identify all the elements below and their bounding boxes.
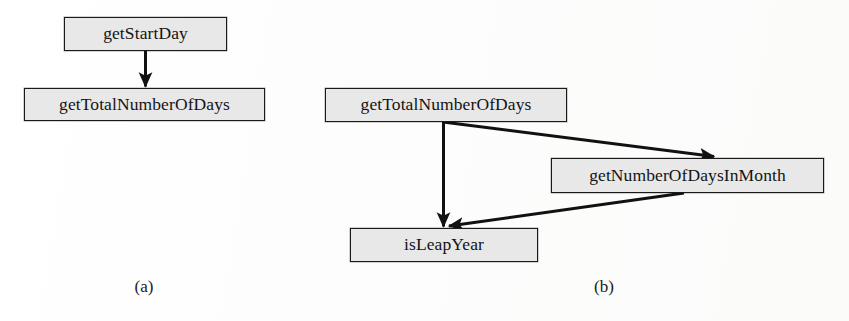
node-label: getTotalNumberOfDays: [59, 96, 230, 114]
node-is-leap-year[interactable]: isLeapYear: [350, 228, 538, 262]
edge-b-gettotalnumberofdays-to-getnumberofdaysinmonth: [443, 122, 714, 157]
call-graph-figure: getStartDay getTotalNumberOfDays (a) get…: [0, 0, 849, 321]
node-get-start-day[interactable]: getStartDay: [64, 17, 227, 51]
node-get-total-number-of-days-a[interactable]: getTotalNumberOfDays: [24, 88, 265, 121]
edge-b-getnumberofdaysinmonth-to-isleapyear: [449, 193, 684, 226]
node-get-total-number-of-days-b[interactable]: getTotalNumberOfDays: [325, 88, 567, 122]
node-label: isLeapYear: [404, 236, 484, 254]
node-label: getTotalNumberOfDays: [361, 96, 532, 114]
node-label: getStartDay: [103, 25, 188, 43]
node-get-number-of-days-in-month[interactable]: getNumberOfDaysInMonth: [551, 158, 824, 193]
node-label: getNumberOfDaysInMonth: [589, 167, 786, 185]
